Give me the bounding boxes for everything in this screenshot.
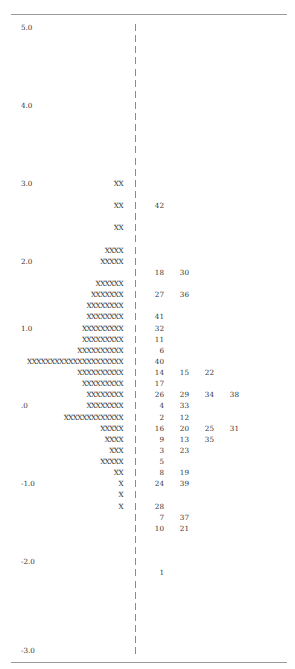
map-row	[0, 579, 295, 590]
map-row: XXXXX16202531	[0, 423, 295, 434]
axis-divider	[135, 156, 136, 167]
item-label: 7	[144, 512, 164, 523]
item-label: 8	[144, 467, 164, 478]
axis-divider	[135, 200, 136, 211]
item-label: 15	[169, 367, 189, 378]
axis-divider	[135, 22, 136, 33]
item-label: 21	[169, 523, 189, 534]
axis-divider	[135, 423, 136, 434]
item-label: 3	[144, 445, 164, 456]
map-row: 2.0XXXXX	[0, 256, 295, 267]
person-distribution: XXXXXXX	[91, 289, 123, 300]
axis-divider	[135, 601, 136, 612]
axis-divider	[135, 323, 136, 334]
person-distribution: X	[118, 501, 123, 512]
item-label: 5	[144, 456, 164, 467]
item-label: 29	[169, 389, 189, 400]
person-distribution: XXX	[109, 445, 123, 456]
map-row: XX	[0, 222, 295, 233]
axis-divider	[135, 590, 136, 601]
person-distribution: XXXXXXXXX	[82, 334, 123, 345]
person-distribution: XXXXXXXXX	[82, 378, 123, 389]
item-label: 13	[169, 434, 189, 445]
person-distribution: XXXXXXXXX	[82, 323, 123, 334]
axis-divider	[135, 233, 136, 244]
person-distribution: XXXX	[105, 434, 123, 445]
axis-divider	[135, 412, 136, 423]
axis-divider	[135, 189, 136, 200]
map-row: 1021	[0, 523, 295, 534]
axis-divider	[135, 44, 136, 55]
person-distribution: XXXXXXXX	[86, 300, 123, 311]
map-row: 3.0XX	[0, 178, 295, 189]
axis-divider	[135, 78, 136, 89]
axis-divider	[135, 378, 136, 389]
axis-divider	[135, 311, 136, 322]
item-label: 23	[169, 445, 189, 456]
item-label: 1	[144, 567, 164, 578]
item-label: 20	[169, 423, 189, 434]
item-label: 38	[219, 389, 239, 400]
item-label: 12	[169, 412, 189, 423]
item-label: 39	[169, 478, 189, 489]
axis-divider	[135, 211, 136, 222]
top-rule	[11, 14, 287, 15]
person-distribution: XXXXXX	[96, 278, 123, 289]
item-label: 6	[144, 345, 164, 356]
map-row	[0, 78, 295, 89]
map-row: XXXXXXXXX11	[0, 334, 295, 345]
axis-divider	[135, 55, 136, 66]
map-row: XXXXXXXXXX141522	[0, 367, 295, 378]
map-row	[0, 133, 295, 144]
axis-divider	[135, 400, 136, 411]
map-row	[0, 122, 295, 133]
map-row: 1830	[0, 267, 295, 278]
item-label: 36	[169, 289, 189, 300]
map-row: XXX323	[0, 445, 295, 456]
person-distribution: XXXXX	[100, 456, 123, 467]
item-label: 14	[144, 367, 164, 378]
map-row: XXXXXXXXXX6	[0, 345, 295, 356]
map-row	[0, 111, 295, 122]
axis-divider	[135, 144, 136, 155]
person-distribution: XXXXXXXXXXXXXXXXXXXXX	[27, 356, 123, 367]
person-distribution: XXXXXXXXXXXXX	[64, 412, 123, 423]
map-row	[0, 67, 295, 78]
axis-divider	[135, 334, 136, 345]
axis-divider	[135, 389, 136, 400]
map-row	[0, 534, 295, 545]
map-row: -3.0	[0, 645, 295, 656]
item-label: 10	[144, 523, 164, 534]
person-distribution: XXXXXXXX	[86, 400, 123, 411]
map-row: XXXX91335	[0, 434, 295, 445]
axis-divider	[135, 278, 136, 289]
axis-divider	[135, 456, 136, 467]
map-row: 1.0XXXXXXXXX32	[0, 323, 295, 334]
map-row	[0, 55, 295, 66]
person-distribution: XXXXXXXX	[86, 389, 123, 400]
item-label: 37	[169, 512, 189, 523]
map-row: XXXXXXXX26293438	[0, 389, 295, 400]
map-row: XXXXXX	[0, 278, 295, 289]
axis-divider	[135, 634, 136, 645]
map-row	[0, 233, 295, 244]
scale-label: .0	[21, 400, 28, 411]
person-distribution: XXXXXXXXXX	[77, 345, 123, 356]
person-distribution: XX	[114, 467, 123, 478]
map-row: XX42	[0, 200, 295, 211]
map-row: 5.0	[0, 22, 295, 33]
axis-divider	[135, 345, 136, 356]
person-distribution: X	[118, 478, 123, 489]
axis-divider	[135, 167, 136, 178]
item-label: 33	[169, 400, 189, 411]
item-label: 17	[144, 378, 164, 389]
person-distribution: XXXXX	[100, 256, 123, 267]
person-distribution: X	[118, 489, 123, 500]
item-label: 11	[144, 334, 164, 345]
axis-divider	[135, 33, 136, 44]
item-label: 9	[144, 434, 164, 445]
item-label: 32	[144, 323, 164, 334]
item-label: 28	[144, 501, 164, 512]
axis-divider	[135, 111, 136, 122]
map-row: -1.0X2439	[0, 478, 295, 489]
